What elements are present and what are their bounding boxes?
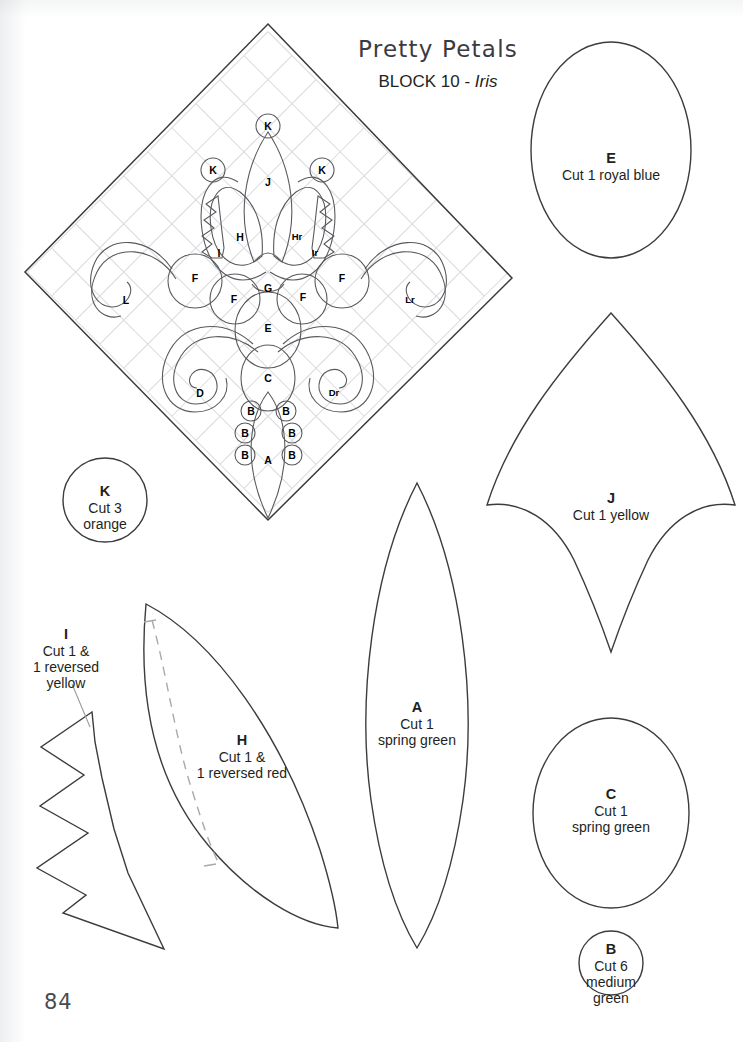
template-a-letter: A <box>378 699 456 716</box>
template-h-guide-tick-top <box>144 620 156 622</box>
template-k-cut-instruction: Cut 3 orange <box>83 500 127 532</box>
block-label-g-12: G <box>264 282 272 294</box>
template-h-letter: H <box>197 732 287 749</box>
block-label-h-4: H <box>236 231 244 243</box>
template-b-caption: BCut 6 medium green <box>586 941 636 1007</box>
template-b-cut-instruction: Cut 6 medium green <box>586 958 636 1007</box>
page-number: 84 <box>44 990 73 1014</box>
block-label-i-6: I <box>218 247 221 259</box>
block-label-b-19: B <box>247 405 255 417</box>
template-e-caption: ECut 1 royal blue <box>562 150 660 183</box>
block-label-c-18: C <box>264 372 272 384</box>
template-j-letter: J <box>573 490 649 507</box>
template-shape-i <box>37 712 164 949</box>
template-h-cut-instruction: Cut 1 & 1 reversed red <box>197 749 287 781</box>
block-label-dr-17: Dr <box>329 387 340 398</box>
block-label-hr-5: Hr <box>292 231 303 242</box>
template-j-cut-instruction: Cut 1 yellow <box>573 507 649 523</box>
block-label-f-11: F <box>339 272 345 284</box>
motif-piece-lr-outer <box>361 252 445 317</box>
template-h-guide-tick-bottom <box>204 864 216 866</box>
template-c-caption: CCut 1 spring green <box>572 786 650 835</box>
template-a-cut-instruction: Cut 1 spring green <box>378 716 456 748</box>
template-a-caption: ACut 1 spring green <box>378 699 456 748</box>
block-label-b-21: B <box>241 427 249 439</box>
block-label-b-24: B <box>288 449 296 461</box>
block-label-k-0: K <box>264 120 272 132</box>
template-j-caption: JCut 1 yellow <box>573 490 649 523</box>
template-k-letter: K <box>83 483 127 500</box>
block-label-b-20: B <box>282 405 290 417</box>
template-i-caption: ICut 1 & 1 reversed yellow <box>33 626 99 692</box>
block-number-label: BLOCK 10 - <box>378 72 474 91</box>
template-b-letter: B <box>586 941 636 958</box>
motif-piece-j <box>244 132 292 262</box>
pattern-page: Pretty Petals BLOCK 10 - Iris KKKJHHrIIr… <box>0 0 743 1042</box>
template-c-cut-instruction: Cut 1 spring green <box>572 803 650 835</box>
block-label-e-15: E <box>264 322 271 334</box>
block-diamond <box>25 24 512 520</box>
block-label-j-3: J <box>265 176 271 188</box>
block-label-a-25: A <box>264 454 272 466</box>
block-label-f-10: F <box>300 291 306 303</box>
block-label-l-13: L <box>123 294 129 306</box>
diamond-grid <box>28 32 509 513</box>
template-i-letter: I <box>33 626 99 643</box>
template-shape-j <box>487 313 735 652</box>
block-label-k-1: K <box>209 164 217 176</box>
block-label-b-22: B <box>288 427 296 439</box>
block-label-f-8: F <box>192 272 198 284</box>
block-label-d-16: D <box>196 387 204 399</box>
block-label-ir-7: Ir <box>312 247 318 258</box>
template-i-cut-instruction: Cut 1 & 1 reversed yellow <box>33 643 99 692</box>
motif-piece-i <box>202 196 224 258</box>
template-e-cut-instruction: Cut 1 royal blue <box>562 167 660 183</box>
template-e-letter: E <box>562 150 660 167</box>
template-c-letter: C <box>572 786 650 803</box>
block-label-lr-14: Lr <box>405 294 415 305</box>
block-subtitle: BLOCK 10 - Iris <box>378 72 497 92</box>
template-k-caption: KCut 3 orange <box>83 483 127 532</box>
block-label-k-2: K <box>318 164 326 176</box>
block-label-f-9: F <box>231 293 237 305</box>
template-h-caption: HCut 1 & 1 reversed red <box>197 732 287 781</box>
block-name-label: Iris <box>475 72 498 91</box>
page-title: Pretty Petals <box>358 36 518 63</box>
block-label-b-23: B <box>241 449 249 461</box>
